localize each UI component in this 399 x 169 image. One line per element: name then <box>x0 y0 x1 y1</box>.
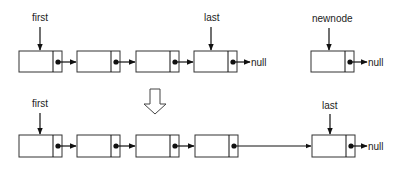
last-pointer-label: last <box>204 12 220 23</box>
list-node <box>77 135 135 157</box>
after-state: first last <box>19 98 384 157</box>
list-node <box>77 51 135 72</box>
linked-list-append-diagram: first last n <box>0 0 399 169</box>
list-node <box>195 135 311 157</box>
last-pointer-label: last <box>322 100 338 111</box>
null-label: null <box>251 57 267 68</box>
null-label: null <box>368 141 384 152</box>
list-node <box>136 51 193 72</box>
newnode-pointer-label: newnode <box>312 13 353 24</box>
new-node: null <box>311 51 384 72</box>
list-node-last: null <box>194 51 267 72</box>
first-pointer-label: first <box>32 98 48 109</box>
list-node <box>19 51 76 72</box>
down-arrow-icon <box>144 89 166 114</box>
first-pointer-label: first <box>32 12 48 23</box>
null-label: null <box>368 57 384 68</box>
before-state: first last n <box>19 12 384 72</box>
list-node <box>19 135 76 157</box>
list-node <box>136 135 194 157</box>
list-node-last: null <box>312 135 384 157</box>
